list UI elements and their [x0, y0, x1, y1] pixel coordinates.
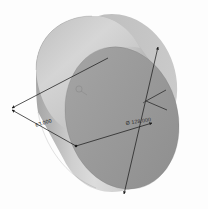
length-dimension-vertex: [75, 145, 78, 148]
cylinder-drawing: 63.000 Ø 128.000: [0, 0, 208, 209]
cad-viewport: 63.000 Ø 128.000: [0, 0, 208, 209]
